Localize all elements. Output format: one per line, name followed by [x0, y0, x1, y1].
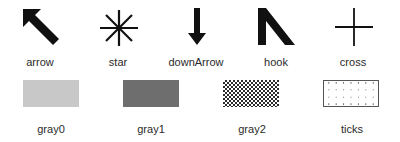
bitmap-label: arrow: [0, 56, 80, 68]
cross-icon: [334, 7, 374, 47]
stipple-label: gray2: [212, 123, 292, 135]
star-asterisk-icon: [99, 9, 139, 47]
bitmap-label: cross: [313, 56, 393, 68]
stipple-label: ticks: [312, 123, 392, 135]
bitmap-label: star: [78, 56, 158, 68]
bitmap-label: downArrow: [156, 56, 236, 68]
ticks-swatch: [323, 80, 379, 107]
stipple-label: gray1: [111, 123, 191, 135]
gray2-swatch: [223, 80, 279, 107]
gray1-swatch: [123, 80, 179, 107]
hook-icon: [257, 7, 297, 47]
bitmap-label: hook: [236, 56, 316, 68]
down-arrow-icon: [188, 7, 206, 47]
arrow-up-left-icon: [21, 7, 61, 47]
stipple-label: gray0: [11, 123, 91, 135]
gray0-swatch: [23, 80, 79, 107]
